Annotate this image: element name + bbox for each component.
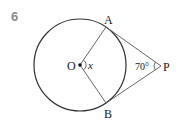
- label-b: B: [104, 107, 112, 121]
- angle-arc-p: [154, 62, 155, 70]
- label-x: x: [87, 59, 93, 71]
- center-point-o: [78, 63, 82, 67]
- angle-arc-o: [83, 60, 86, 70]
- tangent-pb: [106, 66, 161, 103]
- segment-oa: [80, 27, 106, 65]
- label-o: O: [67, 59, 76, 73]
- tangent-pa: [106, 27, 161, 66]
- geometry-diagram: O x A B P 70°: [0, 0, 185, 129]
- label-p: P: [163, 60, 170, 74]
- label-angle-p: 70°: [135, 61, 149, 72]
- segment-ob: [80, 65, 106, 103]
- label-a: A: [104, 13, 113, 27]
